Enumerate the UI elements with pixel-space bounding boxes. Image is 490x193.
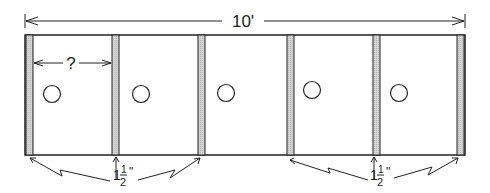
thickness-num-left: 1 bbox=[121, 164, 127, 175]
hole-icon bbox=[304, 82, 321, 99]
thickness-unit-right: " bbox=[386, 165, 390, 179]
holes bbox=[44, 82, 408, 103]
divider-5 bbox=[373, 35, 380, 155]
unknown-width-label: ? bbox=[66, 54, 75, 73]
hole-icon bbox=[133, 86, 150, 103]
divider-2 bbox=[112, 35, 119, 155]
shelf-diagram: 10' ? 1 1 2 " bbox=[0, 0, 490, 193]
dividers bbox=[26, 35, 464, 155]
divider-6 bbox=[457, 35, 464, 155]
divider-4 bbox=[287, 35, 294, 155]
hole-icon bbox=[44, 86, 61, 103]
hole-icon bbox=[218, 85, 235, 102]
thickness-unit-left: " bbox=[129, 165, 133, 179]
thickness-den-left: 2 bbox=[120, 176, 126, 188]
overall-width-label: 10' bbox=[232, 12, 254, 31]
divider-1 bbox=[26, 35, 33, 155]
shelf-outline bbox=[25, 35, 465, 155]
divider-3 bbox=[198, 35, 205, 155]
hole-icon bbox=[391, 85, 408, 102]
thickness-den-right: 2 bbox=[377, 176, 383, 188]
thickness-num-right: 1 bbox=[378, 164, 384, 175]
